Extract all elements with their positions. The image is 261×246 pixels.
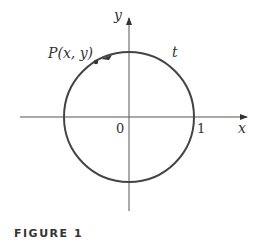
unit-circle-figure: y x 0 1 P(x, y) t FIGURE 1	[0, 0, 261, 246]
one-label: 1	[197, 121, 205, 136]
x-axis-label: x	[238, 120, 246, 136]
figure-caption: FIGURE 1	[14, 227, 83, 240]
point-p	[94, 60, 98, 64]
origin-label: 0	[116, 121, 124, 136]
arc-length-label: t	[172, 44, 178, 60]
y-axis-label: y	[113, 7, 123, 23]
point-label: P(x, y)	[47, 45, 93, 61]
